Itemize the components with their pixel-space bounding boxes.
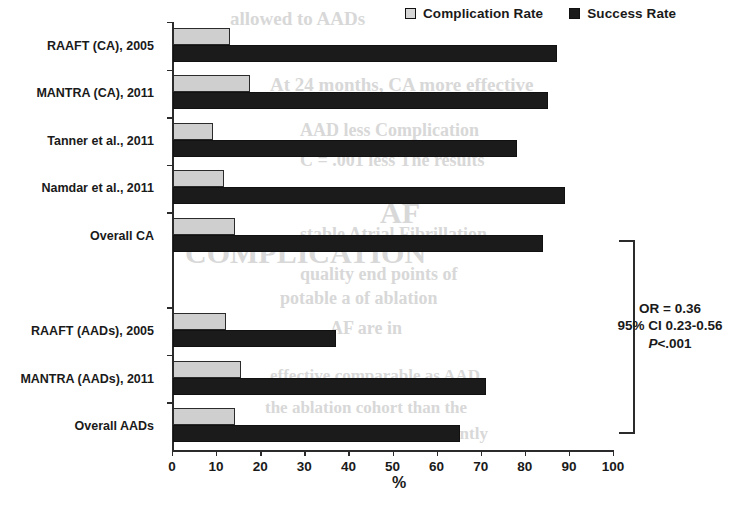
x-axis-tick (437, 450, 438, 456)
legend-swatch-success-rate (569, 8, 580, 19)
y-axis-tick (167, 70, 172, 71)
y-axis-tick (167, 402, 172, 403)
y-axis-tick (167, 165, 172, 166)
x-axis-tick-label: 50 (385, 459, 400, 474)
y-axis-tick (167, 355, 172, 356)
bar-chart: Complication Rate Success Rate RAAFT (CA… (0, 0, 745, 512)
category-label: Overall CA (90, 229, 154, 243)
bar-complication-rate (173, 361, 241, 378)
bar-success-rate (173, 330, 336, 347)
x-axis-tick (393, 450, 394, 456)
x-axis-tick-label: 60 (429, 459, 444, 474)
category-label: Overall AADs (75, 419, 154, 433)
statistics-annotation: OR = 0.36 95% CI 0.23-0.56 P<.001 (595, 300, 745, 352)
p-value-rest: <.001 (657, 336, 691, 351)
legend-label-complication-rate: Complication Rate (423, 6, 543, 21)
category-label: MANTRA (AADs), 2011 (20, 372, 154, 386)
bar-complication-rate (173, 75, 250, 92)
legend-item-complication-rate: Complication Rate (405, 6, 543, 21)
bar-success-rate (173, 425, 460, 442)
y-axis-tick (167, 307, 172, 308)
plot-area: 0102030405060708090100 (172, 22, 613, 450)
bar-complication-rate (173, 218, 235, 235)
bar-success-rate (173, 92, 548, 109)
confidence-interval-text: 95% CI 0.23-0.56 (595, 317, 745, 334)
x-axis-tick-label: 30 (297, 459, 312, 474)
x-axis-tick (304, 450, 305, 456)
category-axis-labels: RAAFT (CA), 2005MANTRA (CA), 2011Tanner … (0, 0, 166, 460)
bar-complication-rate (173, 313, 226, 330)
x-axis-tick (260, 450, 261, 456)
x-axis-tick (481, 450, 482, 456)
category-label: Tanner et al., 2011 (47, 134, 154, 148)
y-axis-tick (167, 212, 172, 213)
y-axis-tick (167, 22, 172, 23)
bar-complication-rate (173, 123, 213, 140)
y-axis-tick (167, 117, 172, 118)
legend-label-success-rate: Success Rate (587, 6, 676, 21)
category-label: RAAFT (AADs), 2005 (31, 324, 154, 338)
legend-swatch-complication-rate (405, 8, 416, 19)
x-axis-tick (525, 450, 526, 456)
odds-ratio-text: OR = 0.36 (595, 300, 745, 317)
p-value-text: P<.001 (595, 335, 745, 352)
x-axis-tick-label: 0 (168, 459, 176, 474)
x-axis-tick-label: 20 (253, 459, 268, 474)
category-label: RAAFT (CA), 2005 (47, 39, 154, 53)
x-axis-tick (613, 450, 614, 456)
x-axis-tick-label: 90 (561, 459, 576, 474)
category-label: Namdar et al., 2011 (41, 181, 154, 195)
x-axis-tick (172, 450, 173, 456)
bar-success-rate (173, 235, 543, 252)
bar-success-rate (173, 378, 486, 395)
x-axis-tick-label: 80 (517, 459, 532, 474)
bar-complication-rate (173, 28, 230, 45)
bar-success-rate (173, 140, 517, 157)
x-axis-tick-label: 10 (209, 459, 224, 474)
bar-success-rate (173, 45, 557, 62)
x-axis-tick-label: 70 (473, 459, 488, 474)
bar-success-rate (173, 187, 565, 204)
chart-legend: Complication Rate Success Rate (405, 6, 676, 21)
x-axis-tick-label: 40 (341, 459, 356, 474)
x-axis-tick (569, 450, 570, 456)
x-axis-tick-label: 100 (602, 459, 625, 474)
x-axis-tick (348, 450, 349, 456)
category-label: MANTRA (CA), 2011 (36, 86, 154, 100)
bar-complication-rate (173, 170, 224, 187)
x-axis-tick (216, 450, 217, 456)
bar-complication-rate (173, 408, 235, 425)
legend-item-success-rate: Success Rate (569, 6, 676, 21)
x-axis-title: % (392, 474, 406, 492)
